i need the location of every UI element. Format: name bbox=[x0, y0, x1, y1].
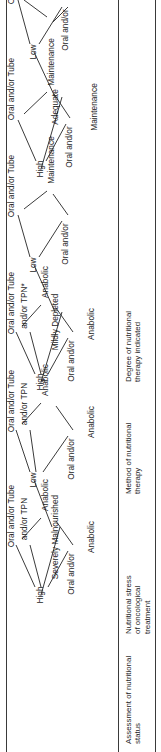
node-stress-severe-high: High bbox=[36, 586, 45, 603]
figure-frame: Severely Malnourished High Oral and/or T… bbox=[0, 0, 161, 752]
node-stress-mild-low: Low bbox=[29, 257, 38, 272]
rotated-figure-canvas: Severely Malnourished High Oral and/or T… bbox=[0, 0, 161, 752]
node-stress-mild-high: High bbox=[36, 373, 45, 390]
node-method-severe-high-3: Oral and/or bbox=[67, 553, 76, 595]
node-stress-severe-low: Low bbox=[29, 472, 38, 487]
edge-severe-low-m3 bbox=[43, 436, 68, 472]
node-method-adequate-low-2: Oral and/or bbox=[61, 9, 70, 51]
node-status-adequate: Adequate bbox=[51, 89, 60, 125]
node-method-adequate-low-1: Oral and/or Tube bbox=[7, 0, 16, 4]
node-method-severe-low-1: Oral and/or Tube bbox=[7, 370, 16, 432]
edge-adequate-low-m1 bbox=[18, 0, 30, 44]
node-degree-mild-low-1: Maintenance bbox=[47, 136, 56, 184]
node-status-mildly-depleted: Mildly Depleted bbox=[51, 294, 60, 351]
node-stress-adequate-low: Low bbox=[29, 44, 38, 59]
caption-method-of-nutritional-therapy: Method of nutritional therapy bbox=[124, 423, 143, 495]
edge-mild-low-m2 bbox=[39, 221, 62, 257]
edge-severe-low-d2 bbox=[56, 406, 73, 430]
node-method-severe-high-1: Oral and/or Tube bbox=[7, 485, 16, 547]
node-method-mild-low-1: Oral and/or Tube bbox=[7, 155, 16, 217]
node-degree-adequate-high-2: Maintenance bbox=[90, 83, 99, 131]
node-degree-adequate-high-1: Maintenance bbox=[47, 38, 56, 86]
node-degree-mild-high-1: Anabolic bbox=[41, 266, 50, 298]
edge-adequate-low-d1 bbox=[24, 0, 47, 17]
node-method-adequate-high-2: Oral and/or bbox=[65, 126, 74, 168]
decision-tree-diagram: Severely Malnourished High Oral and/or T… bbox=[0, 0, 161, 752]
edge-mild-low-d1 bbox=[24, 191, 47, 209]
node-method-mild-high-3: Oral and/or bbox=[67, 340, 76, 382]
edge-mild-low-d2 bbox=[53, 194, 68, 215]
edge-mild-low-m1 bbox=[18, 215, 30, 257]
node-method-mild-high-2: and/or TPN* bbox=[20, 283, 29, 329]
caption-assessment-of-nutritional-status: Assessment of nutritional status bbox=[124, 656, 143, 744]
node-method-severe-high-2: and/or TPN bbox=[20, 498, 29, 540]
node-stress-adequate-high: High bbox=[36, 160, 45, 177]
node-method-severe-low-3: Oral and/or bbox=[67, 438, 76, 480]
caption-nutritional-stress: Nutritional stress of oncological treatm… bbox=[124, 575, 152, 634]
node-method-mild-low-2: Oral and/or bbox=[61, 223, 70, 265]
caption-degree-of-nutritional-therapy: Degree of nutritional therapy indicated bbox=[124, 311, 143, 382]
node-method-severe-low-2: and/or TPN bbox=[20, 383, 29, 425]
node-status-severely-malnourished: Severely Malnourished bbox=[51, 495, 60, 579]
edge-severe-low-m1 bbox=[16, 430, 30, 472]
edge-adequate-high-m1 bbox=[18, 120, 36, 161]
edge-severe-low-m2 bbox=[30, 430, 36, 472]
node-degree-mild-high-2: Anabolic bbox=[87, 308, 96, 340]
node-degree-severe-high-2: Anabolic bbox=[87, 521, 96, 553]
node-degree-severe-high-1: Anabolic bbox=[41, 479, 50, 511]
node-degree-severe-low-2: Anabolic bbox=[87, 406, 96, 438]
node-method-adequate-high-1: Oral and/or Tube bbox=[7, 58, 16, 120]
node-method-mild-high-1: Oral and/or Tube bbox=[7, 272, 16, 334]
edge-adequate-high-d1 bbox=[24, 92, 47, 114]
